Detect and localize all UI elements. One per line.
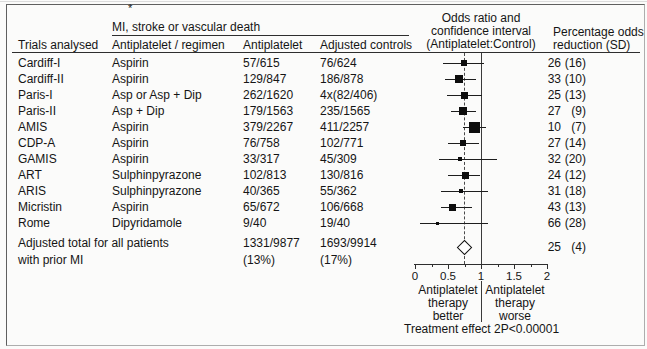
axis-major-tick [415,264,416,269]
trial-name: CDP-A [18,137,55,150]
sd-value: (16) [561,57,586,70]
trial-name: ARIS [18,185,46,198]
axis-major-tick [514,264,515,269]
odds-ratio-square [436,222,439,225]
axis-minor-tick [432,264,433,267]
total-antiplatelet-pct: (13%) [243,254,275,267]
regimen-name: Aspirin [112,121,149,134]
column-header-trials: Trials analysed [18,39,98,52]
sd-value: (10) [561,73,586,86]
pct-reduction: 33 [539,73,561,86]
axis-minor-tick [498,264,499,267]
pct-reduction: 27 [539,137,561,150]
total-controls-pct: (17%) [320,254,352,267]
antiplatelet-count: 65/672 [243,201,280,214]
trial-name: AMIS [18,121,47,134]
sd-value: (12) [561,169,586,182]
controls-count: 130/816 [320,169,363,182]
outcome-underline [112,35,409,36]
axis-major-tick [448,264,449,269]
scan-edge-line [0,1,647,2]
regimen-name: Asp or Asp + Dip [112,89,202,102]
odds-ratio-square [460,140,466,146]
pct-reduction: 31 [539,185,561,198]
total-label-line1: Adjusted total for all patients [18,237,169,250]
axis-tick-label: 2 [544,270,550,283]
pct-reduction: 10 [539,121,561,134]
regimen-name: Aspirin [112,57,149,70]
odds-ratio-square [459,107,467,115]
total-sd: (4) [561,241,586,254]
antiplatelet-count: 379/2267 [243,121,293,134]
total-antiplatelet-count: 1331/9877 [243,237,300,250]
pct-reduction: 26 [539,57,561,70]
trial-name: Paris-I [18,89,53,102]
sd-value: (20) [561,153,586,166]
antiplatelet-count: 9/40 [243,217,266,230]
sd-value: (18) [561,185,586,198]
total-controls-count: 1693/9914 [320,237,377,250]
regimen-name: Sulphinpyrazone [112,169,201,182]
axis-tick-label: 0 [412,270,418,283]
antiplatelet-count: 102/813 [243,169,286,182]
axis-major-tick [481,264,482,269]
axis-major-tick [547,264,548,269]
trial-name: GAMIS [18,153,57,166]
sd-value: (9) [561,105,586,118]
sd-value: (14) [561,137,586,150]
sd-value: (28) [561,217,586,230]
trial-name: Paris-II [18,105,56,118]
footnote-marker: * [128,2,132,15]
axis-minor-tick [465,264,466,267]
axis-tick-label: 1.5 [506,270,522,283]
regimen-name: Aspirin [112,73,149,86]
regimen-name: Asp + Dip [112,105,164,118]
trial-name: Rome [18,217,50,230]
confidence-interval-line [439,159,498,160]
column-header-antiplatelet: Antiplatelet [243,39,302,52]
pct-reduction: 25 [539,89,561,102]
antiplatelet-count: 57/615 [243,57,280,70]
total-pct-reduction: 25 [539,241,561,254]
pct-reduction: 24 [539,169,561,182]
controls-count: 235/1565 [320,105,370,118]
axis-minor-tick [531,264,532,267]
regimen-name: Dipyridamole [112,217,182,230]
confidence-interval-line [420,223,488,224]
antiplatelet-count: 33/317 [243,153,280,166]
controls-count: 411/2257 [320,121,369,134]
antiplatelet-count: 40/365 [243,185,280,198]
controls-count: 4x(82/406) [320,89,377,102]
pct-header-line2: reduction (SD) [553,39,630,52]
antiplatelet-count: 129/847 [243,73,286,86]
odds-ratio-square [458,157,462,161]
antiplatelet-count: 179/1563 [243,105,293,118]
sd-value: (13) [561,201,586,214]
treatment-effect-text: Treatment effect 2P<0.00001 [404,323,559,336]
odds-ratio-square [461,60,467,66]
controls-count: 76/624 [320,57,357,70]
pct-reduction: 43 [539,201,561,214]
controls-count: 55/362 [320,185,357,198]
forest-plot-figure: * MI, stroke or vascular death Trials an… [0,0,647,349]
regimen-name: Aspirin [112,137,149,150]
odds-ratio-square [455,75,463,83]
outcome-title: MI, stroke or vascular death [112,21,260,34]
trial-name: Micristin [18,201,62,214]
odds-ratio-square [449,204,456,211]
odds-ratio-square [462,172,469,179]
controls-count: 186/878 [320,73,363,86]
trial-name: ART [18,169,42,182]
trial-name: Cardiff-I [18,57,60,70]
trial-name: Cardiff-II [18,73,64,86]
better-worse-divider-line [481,281,482,322]
column-header-controls: Adjusted controls [320,39,412,52]
controls-count: 19/40 [320,217,350,230]
axis-tick-label: 0.5 [440,270,456,283]
regimen-name: Aspirin [112,201,149,214]
confidence-interval-line [441,207,472,208]
controls-count: 102/771 [320,137,363,150]
odds-ratio-square [461,92,468,99]
controls-count: 106/668 [320,201,363,214]
confidence-interval-line [441,191,487,192]
